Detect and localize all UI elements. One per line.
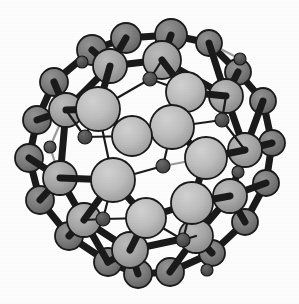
atom-44 [44,141,56,153]
atom-31 [150,105,194,149]
atom-32 [112,116,152,156]
atom-38 [78,130,92,144]
atom-40 [215,113,229,127]
atom-36 [126,198,166,238]
atom-42 [176,233,190,247]
atom-45 [76,56,88,68]
atom-29 [76,87,120,131]
atom-39 [156,159,170,173]
atom-46 [201,264,213,276]
atom-47 [234,53,246,65]
atom-37 [143,72,157,86]
molecule-canvas [0,0,299,304]
atom-41 [96,212,110,226]
atom-35 [171,182,213,224]
atom-43 [232,166,244,178]
molecule-figure [0,0,299,304]
atom-33 [185,137,227,179]
atom-34 [91,158,135,202]
